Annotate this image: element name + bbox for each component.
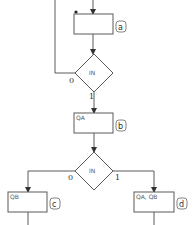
decision-2-branch-1: 1 [115,173,120,182]
svg-text:c: c [52,200,56,209]
loop-back-line [55,0,75,73]
step-c[interactable]: QB [8,192,47,212]
step-a[interactable] [74,14,113,34]
step-a-box[interactable] [74,14,113,34]
decision-1[interactable]: IN [75,54,113,92]
decision-1-branch-0: 0 [69,76,74,85]
decision-1-branch-1: 1 [89,92,94,101]
svg-text:d: d [179,200,184,209]
step-d-tag: d [177,198,187,209]
decision-2[interactable]: IN [75,152,113,190]
svg-text:b: b [118,122,123,131]
step-b-text: QA [76,114,86,121]
decision-1-text: IN [89,69,95,76]
svg-text:a: a [118,23,123,32]
step-c-tag: c [50,198,60,209]
step-a-tag: a [116,21,126,32]
step-d-text: QA, QB [136,193,157,200]
decision-2-branch-0: 0 [68,173,73,182]
initial-dot-icon [74,10,77,13]
decision-2-text: IN [89,167,95,174]
step-b[interactable]: QA [74,113,113,133]
flowchart-canvas: a IN 0 1 QA b IN 0 1 QB c Q [0,0,194,225]
step-c-text: QB [10,193,19,200]
step-b-tag: b [116,120,126,131]
step-d[interactable]: QA, QB [134,192,174,212]
